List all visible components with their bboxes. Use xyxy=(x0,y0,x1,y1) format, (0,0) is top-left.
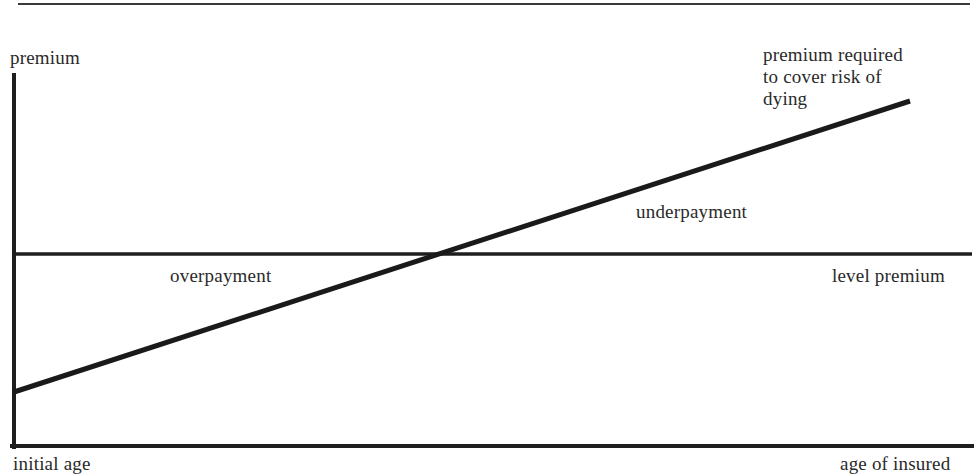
overpayment-region-label: overpayment xyxy=(170,265,271,287)
risk-premium-line xyxy=(14,101,910,392)
risk-premium-line-label: premium required to cover risk of dying xyxy=(763,44,903,110)
level-premium-label: level premium xyxy=(832,265,945,287)
x-axis-start-label: initial age xyxy=(13,453,91,475)
y-axis-label: premium xyxy=(10,47,80,69)
x-axis-end-label: age of insured xyxy=(840,453,950,475)
underpayment-region-label: underpayment xyxy=(636,201,747,223)
